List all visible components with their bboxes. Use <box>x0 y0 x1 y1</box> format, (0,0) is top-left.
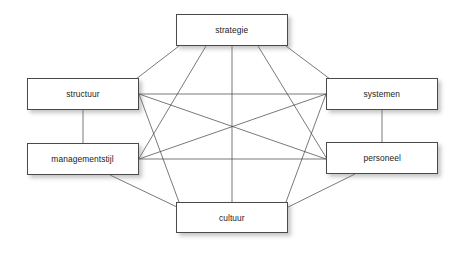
node-label-systemen: systemen <box>364 89 401 99</box>
node-label-structuur: structuur <box>66 89 99 99</box>
node-personeel[interactable]: personeel <box>326 142 438 174</box>
node-strategie[interactable]: strategie <box>176 14 288 46</box>
node-managementstijl[interactable]: managementstijl <box>27 143 139 175</box>
node-structuur[interactable]: structuur <box>27 78 139 110</box>
node-label-managementstijl: managementstijl <box>52 154 114 164</box>
node-label-personeel: personeel <box>363 153 401 163</box>
edge-group <box>83 46 382 218</box>
edge-strategie-systemen <box>286 46 330 79</box>
edge-strategie-managementstijl <box>138 46 206 160</box>
node-label-cultuur: cultuur <box>219 213 245 223</box>
organisation-model-diagram: strategie structuur systemen managements… <box>0 0 466 257</box>
node-label-strategie: strategie <box>216 25 249 35</box>
node-systemen[interactable]: systemen <box>326 78 438 110</box>
edge-strategie-personeel <box>258 46 327 159</box>
edge-strategie-structuur <box>136 46 179 79</box>
node-cultuur[interactable]: cultuur <box>176 202 288 233</box>
